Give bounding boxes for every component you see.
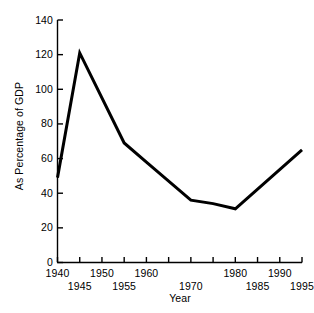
- x-tick-label: 1940: [38, 268, 78, 279]
- x-tick-label: 1955: [104, 281, 144, 292]
- x-tick-label: 1980: [215, 268, 255, 279]
- x-tick-label: 1995: [282, 281, 314, 292]
- chart-container: 020406080100120140 194019451950195519601…: [0, 0, 314, 313]
- x-tick-label: 1945: [60, 281, 100, 292]
- x-tick-label: 1985: [238, 281, 278, 292]
- x-tick-label: 1960: [126, 268, 166, 279]
- x-tick-label: 1990: [260, 268, 300, 279]
- x-axis-title: Year: [60, 292, 300, 304]
- y-axis-title: As Percentage of GDP: [13, 51, 25, 221]
- x-tick-label: 1970: [171, 281, 211, 292]
- x-axis-tick-labels: 1940194519501955196019701980198519901995: [0, 0, 314, 313]
- x-tick-label: 1950: [82, 268, 122, 279]
